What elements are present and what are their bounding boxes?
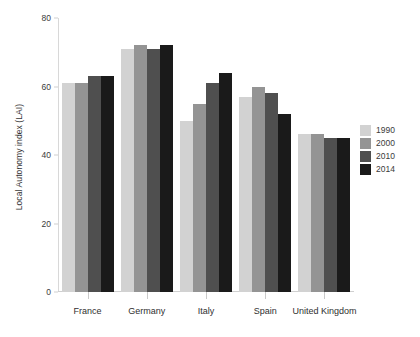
bar[interactable] bbox=[206, 83, 219, 292]
legend-label: 1990 bbox=[376, 125, 395, 136]
legend-label: 2010 bbox=[376, 151, 395, 162]
y-axis-tick-label: 0 bbox=[46, 287, 51, 297]
y-axis-tick-label: 60 bbox=[42, 82, 51, 92]
x-axis-tick-mark bbox=[265, 292, 266, 299]
bar-group: Spain bbox=[236, 18, 295, 292]
legend-swatch bbox=[360, 151, 371, 162]
bar[interactable] bbox=[219, 73, 232, 292]
bar[interactable] bbox=[75, 83, 88, 292]
bar[interactable] bbox=[239, 97, 252, 292]
x-axis-tick-mark bbox=[324, 292, 325, 299]
bar[interactable] bbox=[88, 76, 101, 292]
bar[interactable] bbox=[278, 114, 291, 292]
bar-group: United Kingdom bbox=[295, 18, 354, 292]
x-axis-tick-mark bbox=[147, 292, 148, 299]
legend: 1990200020102014 bbox=[360, 125, 395, 175]
bar[interactable] bbox=[62, 83, 75, 292]
bar-chart: Local Autonomy index (LAI) 020406080 Fra… bbox=[0, 0, 420, 337]
bar-groups: FranceGermanyItalySpainUnited Kingdom bbox=[58, 18, 354, 292]
legend-label: 2014 bbox=[376, 164, 395, 175]
legend-swatch bbox=[360, 125, 371, 136]
bar[interactable] bbox=[193, 104, 206, 292]
bar[interactable] bbox=[121, 49, 134, 292]
x-axis-tick-label: Italy bbox=[198, 306, 215, 316]
legend-item[interactable]: 2000 bbox=[360, 138, 395, 149]
x-axis-tick-mark bbox=[88, 292, 89, 299]
bar[interactable] bbox=[311, 134, 324, 292]
legend-item[interactable]: 2014 bbox=[360, 164, 395, 175]
x-axis-tick-label: France bbox=[74, 306, 102, 316]
x-axis-tick-label: Germany bbox=[128, 306, 165, 316]
bar-group: France bbox=[58, 18, 117, 292]
bar[interactable] bbox=[298, 134, 311, 292]
bar[interactable] bbox=[134, 45, 147, 292]
bar[interactable] bbox=[337, 138, 350, 292]
bar[interactable] bbox=[324, 138, 337, 292]
plot-area: 020406080 FranceGermanyItalySpainUnited … bbox=[58, 18, 354, 292]
y-axis-title: Local Autonomy index (LAI) bbox=[14, 67, 24, 247]
bar[interactable] bbox=[265, 93, 278, 292]
bar[interactable] bbox=[252, 87, 265, 293]
bar[interactable] bbox=[147, 49, 160, 292]
bar-group: Germany bbox=[117, 18, 176, 292]
x-axis-tick-label: United Kingdom bbox=[292, 306, 356, 316]
bar[interactable] bbox=[180, 121, 193, 292]
bar[interactable] bbox=[101, 76, 114, 292]
bar-group: Italy bbox=[176, 18, 235, 292]
legend-item[interactable]: 2010 bbox=[360, 151, 395, 162]
legend-swatch bbox=[360, 138, 371, 149]
y-axis-tick-label: 40 bbox=[42, 150, 51, 160]
y-axis-tick-label: 80 bbox=[42, 13, 51, 23]
x-axis-tick-label: Spain bbox=[254, 306, 277, 316]
legend-label: 2000 bbox=[376, 138, 395, 149]
legend-item[interactable]: 1990 bbox=[360, 125, 395, 136]
legend-swatch bbox=[360, 164, 371, 175]
x-axis-tick-mark bbox=[206, 292, 207, 299]
bar[interactable] bbox=[160, 45, 173, 292]
y-axis-tick-label: 20 bbox=[42, 219, 51, 229]
